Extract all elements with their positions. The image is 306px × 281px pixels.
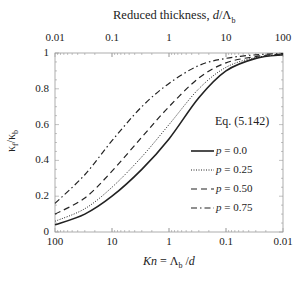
x-axis-label: Kn = Λb /d [143,254,195,270]
top-axis-title: Reduced thickness, d/Λb [113,8,235,25]
equation-annotation: Eq. (5.142) [215,114,269,129]
y-tick-label: 0.6 [35,118,49,130]
y-tick-label: 0.2 [35,189,49,201]
top-tick-label: 100 [275,31,292,43]
top-tick-label: 1 [166,31,172,43]
curve-solid [55,55,283,225]
bottom-tick-label: 0.01 [273,235,292,247]
y-tick-label: 0.4 [35,153,49,165]
y-tick-label: 0.8 [35,82,49,94]
y-tick-label: 1 [44,46,50,58]
top-tick-label: 0.1 [105,31,119,43]
y-tick-label: 0 [44,225,50,237]
legend-item: p = 0.50 [216,182,252,194]
bottom-tick-label: 1 [166,235,172,247]
bottom-tick-label: 10 [107,235,118,247]
legend-item: p = 0.25 [216,163,252,175]
y-axis-label: κf/κb [4,130,20,152]
legend-item: p = 0.0 [216,144,247,156]
top-tick-label: 0.01 [45,31,64,43]
legend-item: p = 0.75 [216,201,252,213]
top-tick-label: 10 [221,31,232,43]
bottom-tick-label: 0.1 [219,235,233,247]
